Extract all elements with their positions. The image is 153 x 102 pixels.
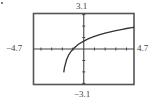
graph-window	[0, 0, 153, 102]
